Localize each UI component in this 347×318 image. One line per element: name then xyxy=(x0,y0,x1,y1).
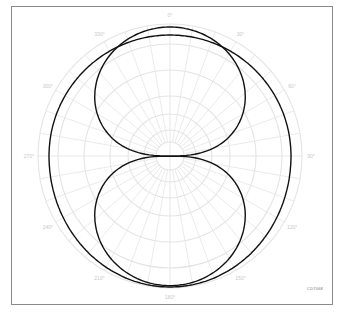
angle-label: 270° xyxy=(24,153,34,159)
angle-label: 60° xyxy=(288,83,296,89)
polar-plot: 0°30°60°90°120°150°180°210°240°270°300°3… xyxy=(0,0,347,318)
angle-label: 180° xyxy=(165,294,175,300)
angle-label: 210° xyxy=(94,275,104,281)
angle-label: 240° xyxy=(43,224,53,230)
angle-label: 150° xyxy=(235,275,245,281)
angle-label: 90° xyxy=(307,153,315,159)
angle-label: 120° xyxy=(287,224,297,230)
angle-label: 300° xyxy=(43,83,53,89)
figure-code-label: CD7068 xyxy=(307,286,323,291)
angle-label: 0° xyxy=(168,12,173,18)
angle-label: 330° xyxy=(94,31,104,37)
angle-label: 30° xyxy=(237,31,245,37)
